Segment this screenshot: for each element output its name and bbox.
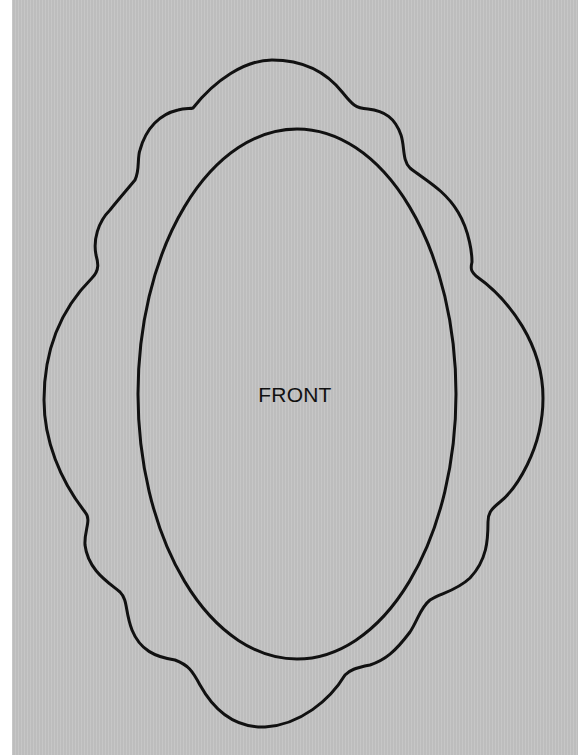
front-label: FRONT (0, 383, 578, 407)
frame-template-diagram (0, 0, 578, 755)
